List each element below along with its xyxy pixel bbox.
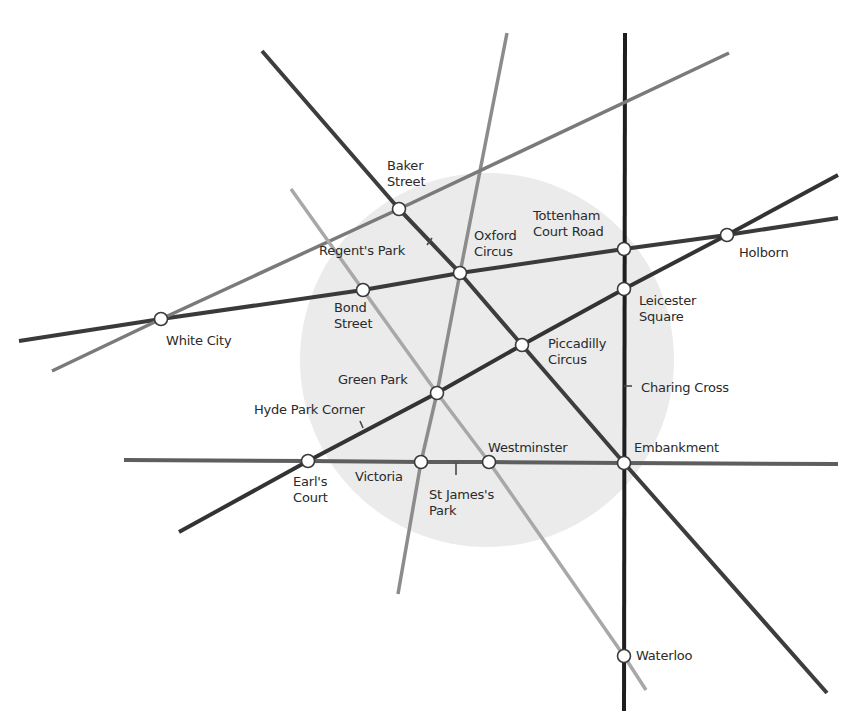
label-baker-street[interactable]: Baker Street bbox=[387, 158, 425, 190]
label-westminster[interactable]: Westminster bbox=[488, 440, 568, 456]
label-oxford-circus[interactable]: Oxford Circus bbox=[474, 228, 517, 260]
station-marker[interactable] bbox=[516, 339, 529, 352]
label-embankment[interactable]: Embankment bbox=[634, 440, 719, 456]
label-white-city[interactable]: White City bbox=[166, 333, 231, 349]
tube-map bbox=[0, 0, 846, 721]
station-marker[interactable] bbox=[618, 650, 631, 663]
station-marker[interactable] bbox=[721, 229, 734, 242]
label-victoria[interactable]: Victoria bbox=[355, 469, 403, 485]
label-earls-court[interactable]: Earl's Court bbox=[293, 474, 328, 506]
label-bond-street[interactable]: Bond Street bbox=[334, 300, 372, 332]
station-marker[interactable] bbox=[431, 387, 444, 400]
station-marker[interactable] bbox=[415, 456, 428, 469]
line-district[interactable] bbox=[124, 460, 838, 464]
station-marker[interactable] bbox=[155, 313, 168, 326]
label-leicester-square[interactable]: Leicester Square bbox=[639, 293, 696, 325]
label-green-park[interactable]: Green Park bbox=[338, 372, 408, 388]
label-piccadilly-circus[interactable]: Piccadilly Circus bbox=[548, 336, 606, 368]
label-charing-cross[interactable]: Charing Cross bbox=[641, 380, 729, 396]
label-holborn[interactable]: Holborn bbox=[739, 245, 789, 261]
station-marker[interactable] bbox=[357, 284, 370, 297]
label-st-james-park[interactable]: St James's Park bbox=[429, 487, 494, 519]
label-waterloo[interactable]: Waterloo bbox=[636, 648, 692, 664]
station-marker[interactable] bbox=[302, 455, 315, 468]
station-marker[interactable] bbox=[618, 283, 631, 296]
station-marker[interactable] bbox=[393, 203, 406, 216]
station-marker[interactable] bbox=[483, 456, 496, 469]
station-marker[interactable] bbox=[618, 243, 631, 256]
station-marker[interactable] bbox=[454, 267, 467, 280]
label-regents-park[interactable]: Regent's Park bbox=[319, 243, 405, 259]
station-marker[interactable] bbox=[618, 457, 631, 470]
line-northern[interactable] bbox=[624, 33, 625, 711]
label-tottenham-court-road[interactable]: Tottenham Court Road bbox=[533, 208, 603, 240]
label-hyde-park-corner[interactable]: Hyde Park Corner bbox=[254, 402, 365, 418]
